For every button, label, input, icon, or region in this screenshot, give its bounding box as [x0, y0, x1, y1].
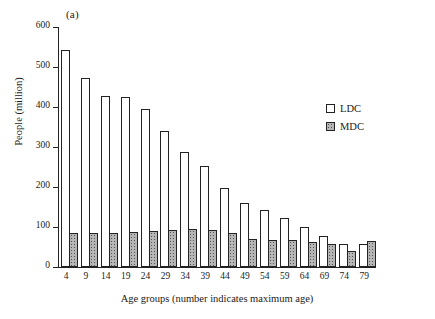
- y-tick-label: 500: [36, 60, 50, 70]
- legend: LDC MDC: [326, 101, 364, 137]
- y-tick: 600: [53, 27, 58, 28]
- legend-label-mdc: MDC: [340, 121, 364, 132]
- bar-mdc: [347, 251, 356, 267]
- y-tick-label: 400: [36, 100, 50, 110]
- legend-item-mdc: MDC: [326, 119, 364, 134]
- y-tick: 0: [53, 267, 58, 268]
- panel-label: (a): [66, 8, 79, 20]
- bar-mdc: [69, 233, 78, 267]
- bar-mdc: [208, 230, 217, 267]
- y-tick: 300: [53, 147, 58, 148]
- bar-mdc: [327, 244, 336, 267]
- bar-mdc: [129, 232, 138, 267]
- bar-mdc: [288, 240, 297, 267]
- legend-label-ldc: LDC: [340, 103, 361, 114]
- legend-item-ldc: LDC: [326, 101, 364, 116]
- figure-panel-a: (a) People (million) Age groups (number …: [0, 0, 435, 319]
- plot-area: 0100200300400500600 49141924293439444954…: [58, 27, 376, 267]
- x-tick-label: 79: [352, 271, 376, 281]
- y-tick-label: 200: [36, 180, 50, 190]
- bar-mdc: [248, 239, 257, 267]
- y-tick: 500: [53, 67, 58, 68]
- bar-mdc: [367, 241, 376, 267]
- bar-mdc: [168, 230, 177, 267]
- bar-mdc: [188, 229, 197, 267]
- y-tick-label: 100: [36, 220, 50, 230]
- y-axis-title: People (million): [13, 42, 24, 182]
- bar-mdc: [228, 233, 237, 267]
- bar-mdc: [268, 240, 277, 267]
- y-axis-line: [58, 27, 59, 267]
- bar-mdc: [89, 233, 98, 267]
- y-tick-label: 600: [36, 20, 50, 30]
- y-tick-label: 300: [36, 140, 50, 150]
- y-tick: 200: [53, 187, 58, 188]
- x-axis-title: Age groups (number indicates maximum age…: [58, 293, 376, 304]
- y-tick: 100: [53, 227, 58, 228]
- x-axis-line: [58, 267, 376, 268]
- bar-mdc: [149, 231, 158, 267]
- stippled-square-icon: [326, 122, 335, 131]
- y-tick-label: 0: [45, 260, 50, 270]
- bar-mdc: [109, 233, 118, 267]
- bar-mdc: [308, 242, 317, 267]
- y-tick: 400: [53, 107, 58, 108]
- open-square-icon: [326, 104, 335, 113]
